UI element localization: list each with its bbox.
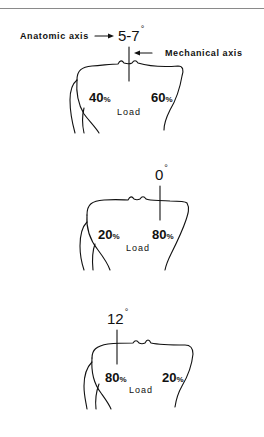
fibula-inner-3 — [96, 384, 99, 409]
right-load-percent-zero: 80% — [152, 226, 174, 242]
left-load-percent-normal: 40% — [89, 89, 111, 105]
mechanical-axis-label: Mechanical axis — [165, 49, 243, 58]
percent-symbol: % — [176, 375, 183, 384]
fibula-inner-1 — [83, 108, 85, 133]
percent-symbol: % — [103, 95, 110, 104]
fibula-outer-2 — [80, 222, 87, 270]
percent-symbol: % — [112, 232, 119, 241]
angle-value: 12 — [107, 310, 124, 327]
right-load-value: 20 — [162, 370, 176, 385]
right-load-value: 60 — [151, 90, 165, 105]
right-load-percent-normal: 60% — [151, 89, 173, 105]
degree-symbol: ° — [141, 24, 145, 34]
percent-symbol: % — [119, 375, 126, 384]
percent-symbol: % — [165, 95, 172, 104]
degree-symbol: ° — [125, 307, 129, 317]
tibia-left-edge-2 — [87, 215, 110, 270]
mechanical-axis-arrowhead — [134, 51, 140, 56]
angle-value: 0 — [155, 166, 163, 183]
anatomic-axis-arrowhead — [108, 34, 114, 39]
angle-label-zero: 0° — [155, 167, 168, 182]
left-load-percent-zero: 20% — [98, 226, 120, 242]
tibial-load-diagram — [0, 0, 264, 437]
fibula-outer-1 — [70, 80, 77, 133]
percent-symbol: % — [166, 232, 173, 241]
degree-symbol: ° — [164, 163, 168, 173]
load-label-zero: Load — [126, 244, 150, 253]
fibula-inner-2 — [92, 244, 95, 270]
left-load-value: 80 — [105, 370, 119, 385]
anatomic-axis-label: Anatomic axis — [20, 32, 89, 41]
right-load-percent-twelve: 20% — [162, 369, 184, 385]
left-load-value: 20 — [98, 227, 112, 242]
angle-label-twelve: 12° — [107, 311, 128, 326]
right-load-value: 80 — [152, 227, 166, 242]
left-load-value: 40 — [89, 90, 103, 105]
load-label-normal: Load — [117, 108, 141, 117]
angle-label-normal: 5-7° — [118, 28, 144, 43]
load-label-twelve: Load — [129, 386, 153, 395]
tibia-left-edge-1 — [77, 80, 99, 133]
angle-value: 5-7 — [118, 27, 140, 44]
left-load-percent-twelve: 80% — [105, 369, 127, 385]
fibula-outer-3 — [84, 362, 92, 409]
